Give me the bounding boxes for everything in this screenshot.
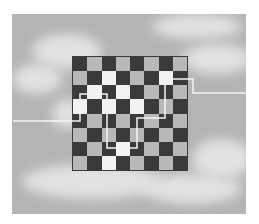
white-line-path (0, 0, 259, 224)
